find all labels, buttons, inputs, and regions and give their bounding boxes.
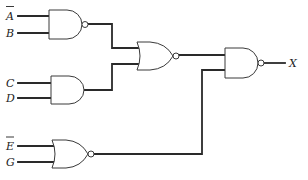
input-label-e-bar: E [5,137,14,153]
nor-gate-4 [52,140,94,168]
and-gate-2 [51,76,84,104]
nor-gate-3 [137,42,179,70]
logic-circuit-diagram: A B C D E G [0,0,308,180]
or-body [137,42,173,70]
nand-gate-1 [49,10,88,39]
inversion-bubble [258,60,264,66]
inversion-bubble [173,53,179,59]
inversion-bubble [82,22,88,28]
interconnect-wires [84,24,285,154]
wire-nand1-to-nor [88,24,138,48]
input-label-d: D [5,92,15,105]
and-body [51,76,84,104]
and-body [225,48,258,78]
wire-and-to-nor [84,64,138,90]
or-body [52,140,88,168]
label-e: E [5,140,14,153]
input-label-b: B [5,27,14,40]
and-body [49,10,82,39]
label-a: A [5,10,14,23]
nand-gate-5 [225,48,264,78]
input-label-g: G [6,156,15,169]
input-label-c: C [6,77,15,90]
output-label-x: X [288,57,298,70]
inversion-bubble [88,151,94,157]
input-label-a-bar: A [5,7,14,24]
